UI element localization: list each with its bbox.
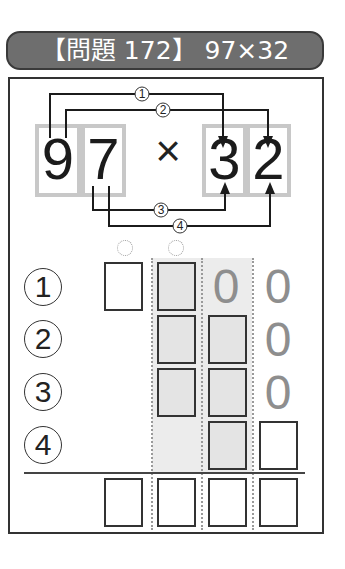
row-label-1: 1 bbox=[24, 268, 62, 306]
answer-box-r4-c3[interactable] bbox=[208, 421, 247, 470]
answer-box-r2-c2[interactable] bbox=[157, 315, 196, 364]
sum-box-c3[interactable] bbox=[208, 478, 247, 527]
row-label-3: 3 bbox=[24, 373, 62, 411]
answer-box-r1-c1[interactable] bbox=[104, 262, 143, 311]
sum-line bbox=[24, 472, 305, 474]
sum-box-c4[interactable] bbox=[259, 478, 298, 527]
placeholder-zero: 0 bbox=[258, 262, 298, 311]
step-2-label: 2 bbox=[160, 103, 167, 117]
placeholder-zero: 0 bbox=[206, 262, 246, 311]
answer-box-r3-c3[interactable] bbox=[208, 368, 247, 417]
row-label-2: 2 bbox=[24, 320, 62, 358]
step-3-label: 3 bbox=[158, 203, 165, 217]
row-label-4: 4 bbox=[24, 426, 62, 464]
step-4-label: 4 bbox=[177, 219, 184, 233]
answer-box-r4-c4[interactable] bbox=[259, 421, 298, 470]
answer-box-r3-c2[interactable] bbox=[157, 368, 196, 417]
arrow-step-1 bbox=[50, 94, 223, 140]
arrow-step-4 bbox=[109, 186, 270, 226]
answer-box-r2-c3[interactable] bbox=[208, 315, 247, 364]
placeholder-zero: 0 bbox=[258, 315, 298, 364]
placeholder-zero: 0 bbox=[258, 368, 298, 417]
answer-box-r1-c2[interactable] bbox=[157, 262, 196, 311]
sum-box-c2[interactable] bbox=[157, 478, 196, 527]
step-1-label: 1 bbox=[139, 87, 146, 101]
sum-box-c1[interactable] bbox=[104, 478, 143, 527]
